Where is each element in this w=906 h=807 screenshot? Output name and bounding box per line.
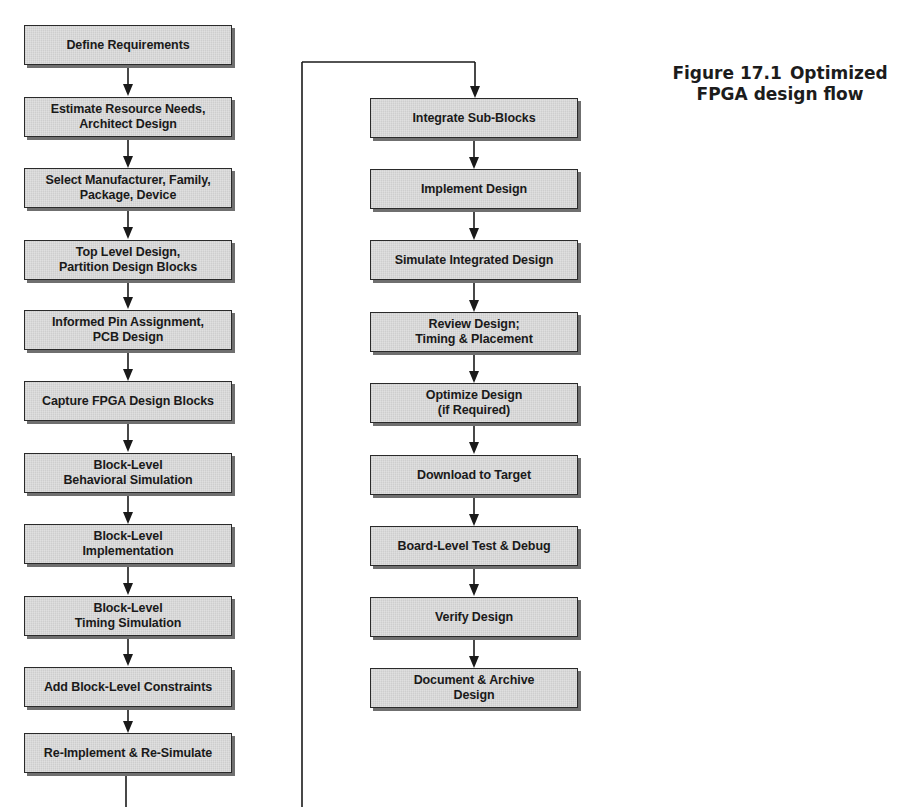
figure-caption: Figure 17.1Optimized FPGA design flow	[655, 63, 905, 105]
step-estimate-resource-needs: Estimate Resource Needs, Architect Desig…	[24, 97, 232, 137]
step-re-implement-re-simulate: Re-Implement & Re-Simulate	[24, 733, 232, 773]
step-review-design: Review Design; Timing & Placement	[370, 312, 578, 352]
figure-number: Figure 17.1	[672, 63, 782, 83]
step-top-level-design: Top Level Design, Partition Design Block…	[24, 240, 232, 280]
step-simulate-integrated-design: Simulate Integrated Design	[370, 240, 578, 280]
step-download-to-target: Download to Target	[370, 455, 578, 495]
step-document-archive-design: Document & Archive Design	[370, 668, 578, 708]
step-define-requirements: Define Requirements	[24, 25, 232, 65]
step-board-level-test-debug: Board-Level Test & Debug	[370, 526, 578, 566]
step-verify-design: Verify Design	[370, 597, 578, 637]
caption-title-part1: Optimized	[790, 63, 888, 83]
step-add-block-level-constraints: Add Block-Level Constraints	[24, 667, 232, 707]
caption-line-1: Figure 17.1Optimized	[655, 63, 905, 84]
step-block-level-timing-simulation: Block-Level Timing Simulation	[24, 596, 232, 636]
step-implement-design: Implement Design	[370, 169, 578, 209]
bridge-arrowhead	[470, 86, 480, 98]
step-select-manufacturer: Select Manufacturer, Family, Package, De…	[24, 168, 232, 208]
step-block-level-implementation: Block-Level Implementation	[24, 524, 232, 564]
step-capture-fpga-design-blocks: Capture FPGA Design Blocks	[24, 381, 232, 421]
step-integrate-sub-blocks: Integrate Sub-Blocks	[370, 98, 578, 138]
step-informed-pin-assignment: Informed Pin Assignment, PCB Design	[24, 310, 232, 350]
step-block-level-behavioral-simulation: Block-Level Behavioral Simulation	[24, 453, 232, 493]
caption-line-2: FPGA design flow	[655, 84, 905, 105]
step-optimize-design: Optimize Design (if Required)	[370, 383, 578, 423]
